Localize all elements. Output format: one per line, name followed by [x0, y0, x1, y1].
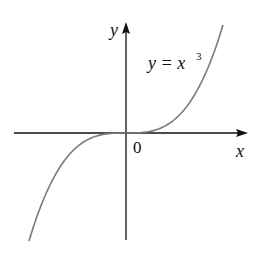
origin-label: 0: [133, 138, 142, 157]
equation-label: y = x 3: [146, 50, 202, 73]
equation-exponent: 3: [196, 50, 202, 62]
cubic-function-graph: y x 0 y = x 3: [0, 0, 260, 254]
equation-base: y = x: [146, 53, 185, 73]
y-axis-label: y: [108, 20, 118, 40]
x-axis-label: x: [235, 141, 244, 161]
